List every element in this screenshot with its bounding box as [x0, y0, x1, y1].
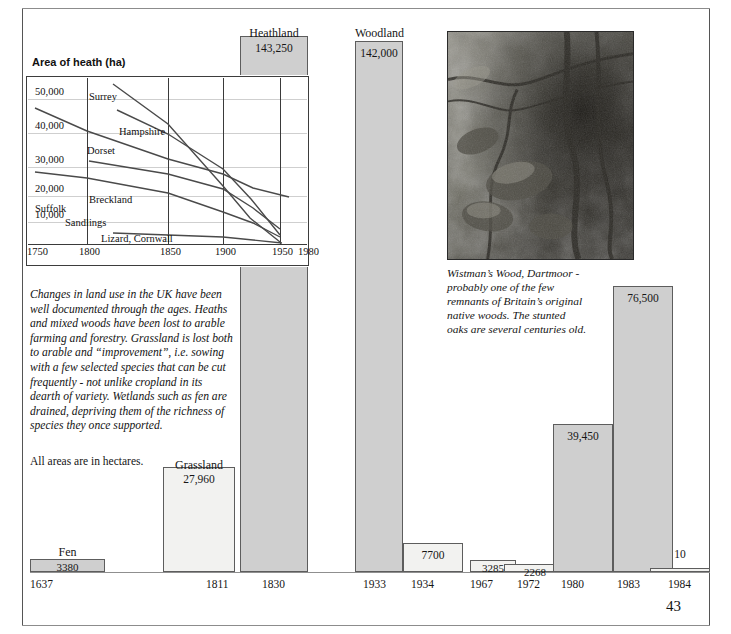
x-tick-label: 1800	[79, 246, 100, 257]
bar-1984	[650, 568, 710, 572]
x-tick-label: 1900	[215, 246, 236, 257]
bar-chart-baseline	[30, 572, 710, 573]
hectares-note: All areas are in hectares.	[30, 455, 210, 467]
bar-1811: 27,960	[163, 467, 235, 572]
bar-year-label: 1980	[561, 578, 584, 590]
series-label-suffolk: Suffolk	[35, 203, 66, 214]
bar-year-label: 1934	[411, 578, 434, 590]
line-chart-plot-area: 50,00040,00030,00020,00010,000 175018001…	[27, 77, 308, 265]
bar-value-label: 143,250	[241, 42, 307, 54]
series-label-hampshire: Hampshire	[119, 126, 165, 137]
page-number: 43	[666, 598, 681, 615]
body-paragraph: Changes in land use in the UK have been …	[30, 288, 233, 434]
series-label-breckland: Breckland	[89, 194, 132, 205]
y-tick-label: 40,000	[35, 120, 64, 131]
bar-year-label: 1983	[617, 578, 640, 590]
bar-name-label: Fen	[30, 545, 105, 560]
bar-year-label: 1637	[30, 578, 53, 590]
y-tick-label: 50,000	[35, 86, 64, 97]
bar-1934: 7700	[403, 543, 463, 572]
series-label-surrey: Surrey	[89, 91, 117, 102]
bar-1933: 142,000	[355, 41, 403, 572]
y-tick-label: 20,000	[35, 183, 64, 194]
series-label-lizard-cornwall: Lizard, Cornwall	[101, 233, 173, 244]
photograph-caption: Wistman’s Wood, Dartmoor - probably one …	[447, 266, 587, 336]
photograph-image	[448, 32, 633, 259]
bar-value-label: 10	[650, 548, 710, 560]
x-tick-label: 1980	[298, 246, 319, 257]
bar-value-label: 142,000	[356, 47, 402, 59]
scanned-book-page: 3380Fen163727,960Grassland1811143,250Hea…	[0, 0, 731, 634]
bar-year-label: 1811	[206, 578, 229, 590]
x-tick-label: 1950	[272, 246, 293, 257]
bar-1980: 39,450	[553, 424, 613, 572]
bar-1637: 3380	[30, 559, 105, 572]
bar-year-label: 1972	[517, 578, 540, 590]
bar-year-label: 1830	[262, 578, 285, 590]
x-tick-label: 1850	[160, 246, 181, 257]
series-label-sandlings: Sandlings	[65, 217, 106, 228]
bar-value-label: 27,960	[164, 473, 234, 485]
bar-name-label: Woodland	[355, 26, 403, 41]
y-tick-label: 30,000	[35, 154, 64, 165]
bar-1983: 76,500	[613, 286, 673, 572]
bar-year-label: 1967	[470, 578, 493, 590]
area-of-heath-line-chart: 50,00040,00030,00020,00010,000 175018001…	[26, 76, 309, 266]
bar-year-label: 1933	[363, 578, 386, 590]
bar-value-label: 7700	[404, 549, 462, 561]
bar-value-label: 39,450	[554, 430, 612, 442]
bar-value-label: 3380	[31, 561, 104, 573]
bar-year-label: 1984	[668, 578, 691, 590]
bar-name-label: Heathland	[240, 26, 308, 41]
line-chart-title: Area of heath (ha)	[32, 56, 126, 68]
wistmans-wood-photograph	[447, 31, 634, 260]
x-tick-label: 1750	[27, 246, 48, 257]
bar-value-label: 76,500	[614, 292, 672, 304]
series-label-dorset: Dorset	[87, 145, 115, 156]
